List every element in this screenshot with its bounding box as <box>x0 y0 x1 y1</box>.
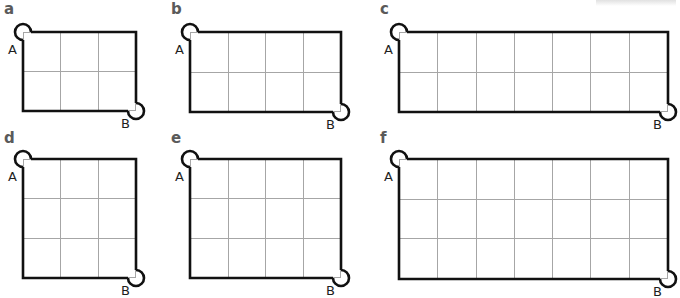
point-b-marker <box>333 104 349 120</box>
boundary-line <box>190 32 341 112</box>
boundary-line <box>399 159 668 279</box>
puzzle-panel-e: e A B <box>190 159 341 278</box>
point-a-marker <box>182 151 198 167</box>
point-b-label: B <box>326 284 335 297</box>
puzzle-panel-c: c A B <box>399 32 668 112</box>
point-b-label: B <box>653 118 662 131</box>
boundary-line <box>23 159 136 278</box>
boundary-outline <box>387 20 680 124</box>
panel-label: d <box>4 131 15 146</box>
puzzle-panel-d: d A B <box>23 159 136 278</box>
point-a-label: A <box>175 43 184 56</box>
point-a-marker <box>391 24 407 40</box>
point-b-marker <box>660 104 676 120</box>
point-a-marker <box>391 151 407 167</box>
point-a-marker <box>15 151 31 167</box>
scan-shadow <box>596 0 676 6</box>
point-a-label: A <box>175 170 184 183</box>
point-b-label: B <box>653 285 662 298</box>
point-a-label: A <box>384 43 393 56</box>
puzzle-panel-b: b A B <box>190 32 341 112</box>
point-b-marker <box>128 270 144 286</box>
point-a-label: A <box>384 170 393 183</box>
boundary-line <box>23 32 136 111</box>
point-b-label: B <box>326 118 335 131</box>
point-a-marker <box>15 24 31 40</box>
boundary-outline <box>11 20 148 123</box>
point-a-marker <box>182 24 198 40</box>
point-b-label: B <box>121 117 130 130</box>
boundary-line <box>190 159 341 278</box>
point-b-marker <box>660 271 676 287</box>
panel-label: e <box>171 131 181 146</box>
panel-label: f <box>380 131 387 146</box>
boundary-outline <box>178 20 353 124</box>
point-a-label: A <box>8 170 17 183</box>
boundary-outline <box>387 147 680 291</box>
panel-label: c <box>380 2 389 17</box>
puzzle-panel-f: f A B <box>399 159 668 279</box>
point-b-marker <box>333 270 349 286</box>
puzzle-panel-a: a A B <box>23 32 136 111</box>
point-b-marker <box>128 103 144 119</box>
point-b-label: B <box>121 284 130 297</box>
panel-label: b <box>171 2 182 17</box>
point-a-label: A <box>8 43 17 56</box>
boundary-outline <box>178 147 353 290</box>
boundary-line <box>399 32 668 112</box>
boundary-outline <box>11 147 148 290</box>
panel-label: a <box>4 2 14 17</box>
